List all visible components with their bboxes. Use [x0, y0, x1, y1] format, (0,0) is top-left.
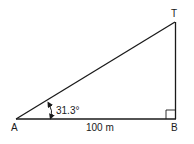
angle-label: 31.3°: [56, 105, 79, 116]
vertex-label-B: B: [171, 122, 178, 133]
angle-arrow-icon: [49, 104, 52, 117]
vertex-label-T: T: [171, 8, 177, 19]
vertex-label-A: A: [11, 122, 18, 133]
base-length-label: 100 m: [86, 122, 114, 133]
right-triangle-diagram: T A B 31.3° 100 m: [0, 0, 194, 144]
right-angle-marker: [166, 110, 176, 119]
hypotenuse-AT: [16, 22, 175, 119]
